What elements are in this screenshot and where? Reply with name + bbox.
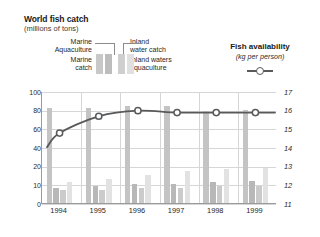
legend-line: Fish availability (kg per person) (208, 42, 312, 76)
y-axis-right-tick-12: 12 (284, 182, 306, 189)
legend-bars: Marine Aquaculture Marine catch Inland w… (18, 38, 203, 80)
gridline-11 (42, 204, 276, 205)
y-axis-right-tick-17: 17 (284, 89, 306, 96)
chart-subtitle: (millions of tons) (24, 24, 79, 33)
y-axis-right-tick-13: 13 (284, 163, 306, 170)
legend-label-marine-catch-line2: catch (18, 64, 92, 72)
legend-leader-line-inland-water-catch (123, 43, 142, 44)
fish-availability-line-path (47, 111, 255, 148)
legend-label-marine-catch: Marine catch (18, 56, 92, 73)
y-axis-right-tick-11: 11 (284, 201, 306, 208)
fish-availability-point-1997 (174, 109, 180, 115)
y-axis-left-tick-40: 40 (19, 145, 41, 152)
x-axis-tick-1995: 1995 (78, 206, 118, 215)
fish-availability-point-1995 (96, 113, 102, 119)
legend-swatch-marine-catch (96, 54, 103, 74)
legend-label-marine-aquaculture-line1: Marine (18, 38, 92, 46)
legend-line-subtitle: (kg per person) (208, 52, 312, 61)
x-axis-tick-1998: 1998 (195, 206, 235, 215)
chart-figure: World fish catch (millions of tons) Mari… (0, 0, 320, 237)
y-axis-left-tick-60: 60 (19, 126, 41, 133)
legend-swatch-marine-aquaculture (105, 54, 112, 74)
legend-label-marine-catch-line1: Marine (18, 56, 92, 64)
x-axis-tick-1999: 1999 (234, 206, 274, 215)
fish-availability-point-1998 (213, 109, 219, 115)
x-axis-tick-1997: 1997 (156, 206, 196, 215)
y-axis-right-tick-15: 15 (284, 126, 306, 133)
fish-availability-line (42, 92, 277, 204)
y-axis-left-tick-80: 80 (19, 107, 41, 114)
y-axis-left-tick-100: 100 (19, 89, 41, 96)
y-axis-right-tick-14: 14 (284, 145, 306, 152)
y-axis-left-tick-10: 10 (19, 182, 41, 189)
legend-label-marine-aquaculture-line2: Aquaculture (18, 46, 92, 54)
y-axis-left-tick-20: 20 (19, 163, 41, 170)
y-axis-right-tick-16: 16 (284, 107, 306, 114)
x-axis-tick-1994: 1994 (39, 206, 79, 215)
legend-leader-line-marine-aquaculture (95, 43, 114, 44)
legend-swatch-group (96, 54, 140, 74)
legend-line-marker (208, 64, 312, 76)
fish-availability-point-1999 (252, 109, 258, 115)
x-axis-tick-1996: 1996 (117, 206, 157, 215)
fish-availability-point-1994 (56, 130, 62, 136)
legend-label-inland-water-catch: Inland water catch (130, 38, 166, 55)
legend-swatch-inland-water-catch (118, 54, 125, 74)
legend-swatch-inland-waters-aquaculture (127, 54, 134, 74)
legend-line-title: Fish availability (208, 42, 312, 51)
legend-label-marine-aquaculture: Marine Aquaculture (18, 38, 92, 55)
fish-availability-point-1996 (135, 108, 141, 114)
plot-area (41, 92, 276, 204)
chart-title: World fish catch (24, 14, 88, 24)
legend-line-circle-icon (256, 67, 264, 75)
